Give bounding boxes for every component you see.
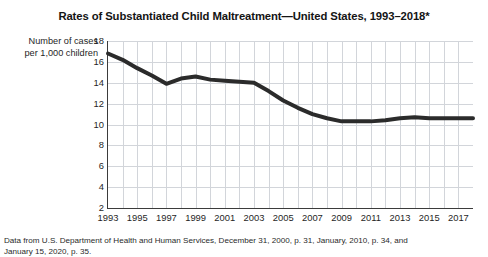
x-axis-tick-label: 2003	[244, 213, 265, 222]
data-line-series	[108, 54, 473, 122]
y-axis-label-line-2: per 1,000 children	[2, 48, 98, 60]
source-note: Data from U.S. Department of Health and …	[4, 236, 484, 257]
chart-title: Rates of Substantiated Child Maltreatmen…	[0, 10, 488, 22]
y-axis-tick-label: 16	[94, 57, 104, 66]
y-axis-label: Number of cases per 1,000 children	[2, 36, 98, 59]
x-axis-tick-label: 1993	[98, 213, 119, 222]
y-axis-tick-label: 18	[94, 36, 104, 45]
x-axis-tick-label: 2011	[361, 213, 381, 222]
data-line-svg	[108, 41, 474, 209]
source-note-line-2: January 15, 2020, p. 35.	[4, 247, 484, 257]
plot-area: 2468101214161819931995199719992001200320…	[107, 41, 473, 209]
y-axis-label-line-1: Number of cases	[2, 36, 98, 48]
y-axis-tick-label: 14	[94, 78, 104, 87]
y-axis-tick-label: 6	[99, 162, 104, 171]
x-axis-tick-label: 2015	[419, 213, 440, 222]
x-axis-tick-label: 2007	[302, 213, 323, 222]
x-axis-tick-label: 1997	[156, 213, 177, 222]
x-axis-tick-label: 2005	[273, 213, 294, 222]
y-axis-tick-label: 4	[99, 182, 104, 191]
x-axis-tick-label: 2009	[331, 213, 352, 222]
x-axis-tick-label: 2013	[390, 213, 411, 222]
x-axis-tick-label: 1999	[185, 213, 206, 222]
x-axis-tick-label: 1995	[127, 213, 148, 222]
y-axis-tick-label: 12	[94, 99, 104, 108]
y-axis-tick-label: 10	[94, 120, 104, 129]
y-axis-tick-label: 8	[99, 141, 104, 150]
x-axis-tick-label: 2017	[448, 213, 469, 222]
source-note-line-1: Data from U.S. Department of Health and …	[4, 236, 484, 247]
x-axis-tick-label: 2001	[214, 213, 235, 222]
